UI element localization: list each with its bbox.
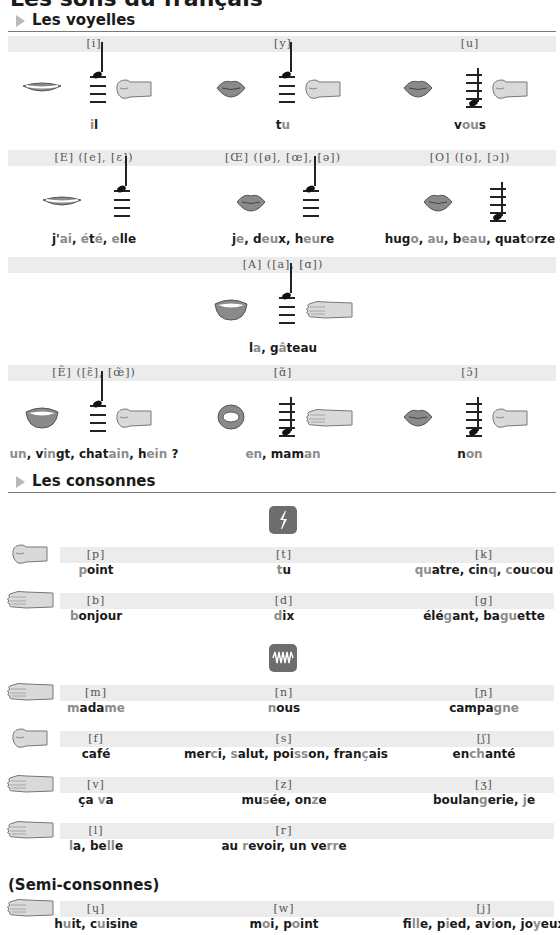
sound-letters: p	[78, 563, 87, 577]
sound-letters: au	[427, 232, 444, 246]
sound-letters: u	[97, 917, 106, 931]
note-stem	[101, 371, 103, 401]
sound-letters: g	[444, 609, 453, 623]
lips-rounded-icon	[423, 192, 453, 212]
sound-letters: ai	[60, 232, 72, 246]
word-letters: s	[479, 118, 486, 132]
hand-fist-icon	[116, 407, 152, 429]
word-letters: erie,	[488, 793, 523, 807]
sound-letters: ain	[108, 447, 129, 461]
sound-letters: me	[104, 701, 125, 715]
word-letters: ant, ba	[452, 609, 500, 623]
pitch-staff-icon	[490, 182, 506, 228]
staff-line	[279, 93, 295, 95]
word-letters: atre, cin	[432, 563, 488, 577]
hand-fist-icon	[305, 78, 341, 100]
word-letters: j'	[52, 232, 60, 246]
word-letters: isine	[106, 917, 138, 931]
example-words: moi, point	[184, 917, 384, 931]
semi-consonants-heading: (Semi-consonnes)	[8, 876, 159, 894]
sound-letters: é	[95, 232, 103, 246]
word-letters: , v	[27, 447, 44, 461]
staff-line	[303, 199, 319, 201]
ipa-symbol: [p]	[0, 548, 196, 561]
sound-letters: n	[268, 701, 277, 715]
sound-letters: e	[236, 232, 244, 246]
word-letters: on, jo	[495, 917, 533, 931]
word-letters: i, p	[270, 917, 291, 931]
sound-letters: a	[253, 341, 261, 355]
example-words: j'ai, été, elle	[4, 232, 184, 246]
sound-letters: ch	[469, 747, 485, 761]
sound-letters: e	[112, 232, 120, 246]
note-stem	[477, 397, 479, 431]
word-letters: u	[283, 563, 292, 577]
sound-letters: qu	[415, 563, 432, 577]
word-letters: e	[318, 793, 326, 807]
sound-letters: eu	[303, 232, 320, 246]
example-words: quatre, cinq, coucou	[384, 563, 560, 577]
page-title: Les sons du français	[10, 0, 263, 11]
sound-letters: é	[81, 232, 89, 246]
note-stem	[290, 397, 292, 431]
word-letters: mer	[184, 747, 211, 761]
lips-open-icon	[25, 405, 59, 429]
staff-line	[303, 215, 319, 217]
note-stem	[501, 182, 503, 216]
example-words: tu	[193, 118, 373, 132]
word-letters: ix	[282, 609, 294, 623]
sound-letters: m	[67, 701, 80, 715]
sound-letters: s	[262, 793, 269, 807]
word-letters: café	[82, 747, 111, 761]
ipa-symbol: [y]	[193, 37, 373, 50]
sound-letters: u	[282, 118, 291, 132]
note-stem	[314, 156, 316, 186]
lips-rounded-icon	[403, 78, 433, 98]
word-letters: , quat	[486, 232, 526, 246]
example-words: je, deux, heure	[193, 232, 373, 246]
word-letters: ça	[78, 793, 97, 807]
sound-letters: an	[304, 447, 321, 461]
pitch-staff-icon	[279, 289, 295, 335]
note-stem	[290, 263, 292, 293]
sound-letters: en	[245, 447, 262, 461]
staff-line	[466, 403, 482, 405]
word-letters: gt, chat	[56, 447, 109, 461]
word-letters: evoir, un ve	[248, 839, 326, 853]
pitch-staff-icon	[279, 68, 295, 114]
word-letters: au	[221, 839, 242, 853]
word-letters: boulan	[433, 793, 479, 807]
word-letters: re	[320, 232, 334, 246]
word-letters: l	[94, 118, 98, 132]
ipa-symbol: [ʒ]	[384, 778, 560, 791]
example-words: hugo, au, beau, quatorze	[380, 232, 560, 246]
section-header: Les consonnes	[8, 473, 556, 493]
staff-line	[279, 322, 295, 324]
word-letters: ada	[80, 701, 105, 715]
word-letters: eux	[541, 917, 560, 931]
staff-line	[303, 207, 319, 209]
example-words: tu	[184, 563, 384, 577]
sound-letters: c	[506, 563, 513, 577]
section-header: Les voyelles	[8, 12, 556, 32]
example-words: la, belle	[0, 839, 196, 853]
ipa-symbol: [w]	[184, 902, 384, 915]
pitch-staff-icon	[466, 397, 482, 443]
example-words: vous	[380, 118, 560, 132]
ipa-symbol: [Ẽ] ([ɛ̃], [œ̃])	[4, 366, 184, 379]
sound-letters: y	[533, 917, 541, 931]
word-letters: ou	[537, 563, 554, 577]
sound-letters: o	[526, 232, 534, 246]
word-letters: en	[453, 747, 470, 761]
word-letters: , d	[244, 232, 261, 246]
staff-line	[279, 101, 295, 103]
word-letters: a, be	[73, 839, 107, 853]
example-words: fille, pied, avion, joyeux	[384, 917, 560, 931]
note-stem	[125, 156, 127, 186]
hand-fist-icon	[492, 78, 528, 100]
staff-line	[90, 430, 106, 432]
lightning-icon	[269, 506, 297, 534]
note-stem	[477, 68, 479, 102]
sound-letters: g	[479, 793, 488, 807]
sound-letters: q	[488, 563, 497, 577]
